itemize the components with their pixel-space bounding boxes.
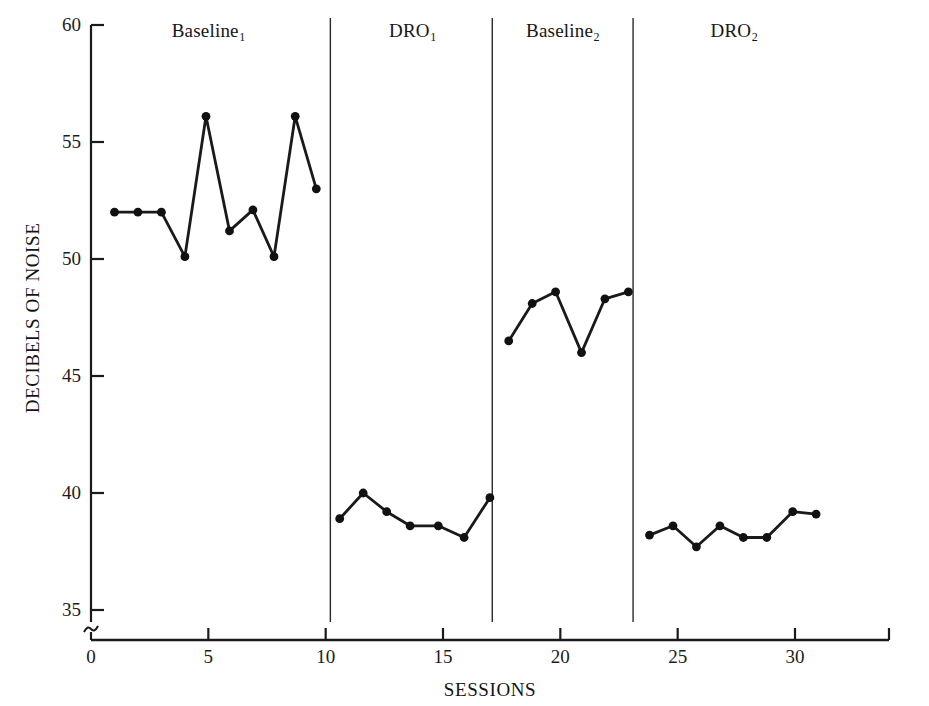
y-axis-tick-label: 50	[62, 248, 81, 270]
phase-label-subscript: 2	[752, 30, 758, 44]
series-line-Baseline2	[509, 292, 629, 353]
phase-label-subscript: 1	[430, 30, 436, 44]
x-axis-tick-label: 25	[668, 646, 687, 668]
data-point-marker	[434, 521, 443, 530]
data-point-marker	[291, 112, 300, 121]
data-point-marker	[134, 208, 143, 217]
data-point-marker	[359, 489, 368, 498]
data-point-marker	[645, 531, 654, 540]
data-point-marker	[669, 521, 678, 530]
phase-label-dro1: DRO1	[389, 20, 436, 42]
series-line-Baseline1	[115, 116, 317, 256]
data-point-marker	[225, 227, 234, 236]
x-axis-title: SESSIONS	[444, 679, 536, 701]
data-point-marker	[716, 521, 725, 530]
chart-plot-area	[0, 0, 929, 706]
phase-label-baseline2: Baseline2	[526, 20, 599, 42]
data-point-marker	[181, 252, 190, 261]
data-point-marker	[739, 533, 748, 542]
phase-label-text: DRO	[711, 20, 752, 41]
data-point-marker	[486, 493, 495, 502]
y-axis-tick-label: 35	[62, 599, 81, 621]
phase-label-text: DRO	[389, 20, 430, 41]
axis-break-icon	[84, 626, 98, 632]
data-point-marker	[692, 542, 701, 551]
data-point-marker	[788, 507, 797, 516]
phase-label-subscript: 2	[594, 30, 600, 44]
data-point-marker	[528, 299, 537, 308]
series-line-DRO1	[340, 493, 490, 538]
data-point-marker	[270, 252, 279, 261]
y-axis-title: DECIBELS OF NOISE	[22, 222, 44, 413]
data-point-marker	[624, 287, 633, 296]
phase-label-text: Baseline	[172, 20, 239, 41]
data-point-marker	[762, 533, 771, 542]
data-point-marker	[601, 294, 610, 303]
data-point-marker	[202, 112, 211, 121]
data-point-marker	[382, 507, 391, 516]
x-axis-tick-label: 10	[316, 646, 335, 668]
x-axis-tick-label: 30	[786, 646, 805, 668]
chart-figure: Baseline1DRO1Baseline2DRO235404550556005…	[0, 0, 929, 706]
y-axis-tick-label: 60	[62, 14, 81, 36]
data-point-marker	[812, 510, 821, 519]
y-axis-tick-label: 40	[62, 482, 81, 504]
data-point-marker	[406, 521, 415, 530]
phase-label-text: Baseline	[526, 20, 593, 41]
data-point-marker	[504, 337, 513, 346]
y-axis-tick-label: 55	[62, 131, 81, 153]
x-axis-tick-label: 15	[434, 646, 453, 668]
x-axis-tick-label: 5	[204, 646, 214, 668]
data-point-marker	[551, 287, 560, 296]
phase-label-subscript: 1	[239, 30, 245, 44]
data-point-marker	[157, 208, 166, 217]
data-point-marker	[249, 206, 258, 215]
data-point-marker	[110, 208, 119, 217]
phase-label-dro2: DRO2	[711, 20, 758, 42]
data-point-marker	[312, 184, 321, 193]
x-axis-tick-label: 0	[86, 646, 96, 668]
y-axis-tick-label: 45	[62, 365, 81, 387]
data-series-group	[110, 112, 820, 551]
phase-label-baseline1: Baseline1	[172, 20, 245, 42]
data-point-marker	[335, 514, 344, 523]
data-point-marker	[577, 348, 586, 357]
x-axis-tick-label: 20	[551, 646, 570, 668]
phase-divider-lines	[330, 18, 633, 622]
data-point-marker	[460, 533, 469, 542]
